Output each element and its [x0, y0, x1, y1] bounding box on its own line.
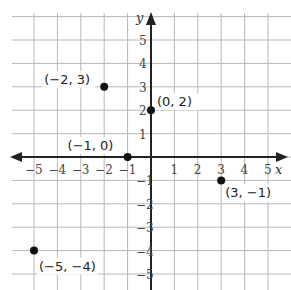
x-axis-label: x	[275, 162, 283, 177]
x-tick-label: 2	[194, 163, 202, 177]
y-tick-label: 1	[139, 128, 147, 142]
x-tick-label: −5	[25, 163, 43, 177]
y-tick-label: −1	[136, 174, 154, 188]
y-tick-label: −4	[136, 245, 154, 259]
point-label: (−1, 0)	[68, 138, 114, 153]
point-label: (0, 2)	[157, 94, 192, 109]
y-tick-label: −5	[136, 268, 154, 282]
point-label: (3, −1)	[225, 185, 271, 200]
x-tick-label: −3	[72, 163, 90, 177]
y-axis-up-arrow-icon	[146, 12, 156, 25]
point-marker	[124, 153, 132, 161]
point-label: (−2, 3)	[44, 72, 90, 87]
y-tick-label: 5	[139, 34, 147, 48]
x-tick-label: 1	[170, 163, 178, 177]
x-tick-label: 4	[241, 163, 249, 177]
point-marker	[217, 176, 225, 184]
coordinate-plane: xy −5−4−3−2−11234554321−1−2−3−4−5 (−2, 3…	[0, 0, 291, 290]
point-label: (−5, −4)	[39, 259, 96, 274]
y-axis-label: y	[135, 10, 144, 25]
y-tick-label: 2	[139, 104, 147, 118]
point-marker	[100, 83, 108, 91]
x-tick-label: −4	[48, 163, 66, 177]
x-tick-label: 5	[264, 163, 272, 177]
point-marker	[147, 106, 155, 114]
y-tick-label: −2	[136, 198, 154, 212]
point-marker	[30, 247, 38, 255]
x-tick-label: −2	[95, 163, 113, 177]
y-tick-label: 4	[139, 57, 147, 71]
x-axis-right-arrow-icon	[276, 152, 288, 162]
y-tick-label: 3	[139, 81, 147, 95]
x-tick-label: −1	[119, 163, 137, 177]
x-axis-left-arrow-icon	[10, 152, 22, 162]
y-tick-label: −3	[136, 221, 154, 235]
x-tick-label: 3	[217, 163, 225, 177]
